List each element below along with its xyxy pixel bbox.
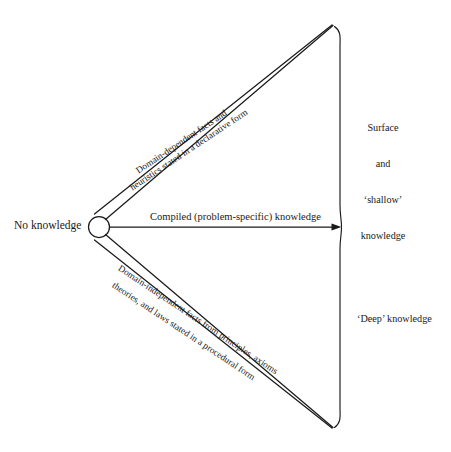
upper-brace-label: Surface and ‘shallow’ knowledge (351, 98, 415, 266)
origin-node-circle (89, 217, 110, 238)
upper-brace-label-line2: and (351, 158, 415, 170)
upper-brace-label-line3: ‘shallow’ (351, 194, 415, 206)
origin-node-label: No knowledge (14, 219, 81, 233)
diagram-canvas: No knowledge Compiled (problem-specific)… (0, 0, 451, 452)
lower-brace-label: ‘Deep’ knowledge (357, 313, 432, 325)
middle-branch-arrowhead (332, 223, 342, 230)
middle-branch-label: Compiled (problem-specific) knowledge (150, 211, 321, 223)
upper-brace (335, 27, 342, 227)
upper-brace-label-line4: knowledge (351, 230, 415, 242)
upper-brace-label-line1: Surface (351, 122, 415, 134)
lower-brace (335, 228, 342, 428)
